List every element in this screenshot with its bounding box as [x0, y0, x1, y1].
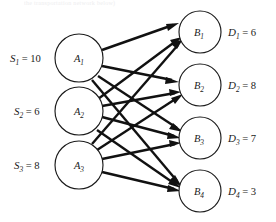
node-b4[interactable]: B4	[179, 170, 221, 212]
nodes-layer: A1 A2 A3 B1	[55, 11, 221, 212]
node-a1[interactable]: A1	[55, 34, 103, 82]
edges-layer	[92, 23, 183, 192]
demand-label-d1: D1=6	[227, 26, 256, 41]
node-a3[interactable]: A3	[55, 141, 103, 189]
node-b1[interactable]: B1	[179, 11, 221, 53]
demand-label-d4: D4=3	[227, 185, 256, 200]
supply-label-s3: S3=8	[14, 159, 39, 174]
transportation-network-figure: the transportation network below)	[0, 0, 276, 222]
ghost-caption-text: the transportation network below)	[24, 0, 184, 8]
edge-a3-b4	[102, 172, 181, 192]
node-a2[interactable]: A2	[55, 87, 103, 135]
labels-layer: S1=10 S2=6 S3=8 D1=6 D2=8 D3=7 D4=3	[10, 26, 256, 200]
network-svg: A1 A2 A3 B1	[0, 0, 276, 222]
node-b3[interactable]: B3	[179, 117, 221, 159]
demand-label-d3: D3=7	[227, 132, 256, 147]
node-b2[interactable]: B2	[179, 64, 221, 106]
demand-label-d2: D2=8	[227, 79, 256, 94]
edge-a3-b1	[92, 39, 183, 144]
supply-label-s2: S2=6	[14, 105, 39, 120]
supply-label-s1: S1=10	[10, 52, 41, 67]
